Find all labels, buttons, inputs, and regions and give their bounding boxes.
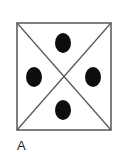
option-figure xyxy=(0,0,121,153)
dot-left xyxy=(26,67,42,87)
option-label: A xyxy=(17,138,26,153)
dot-bottom xyxy=(55,100,71,120)
dot-right xyxy=(85,67,101,87)
dot-top xyxy=(55,33,71,53)
